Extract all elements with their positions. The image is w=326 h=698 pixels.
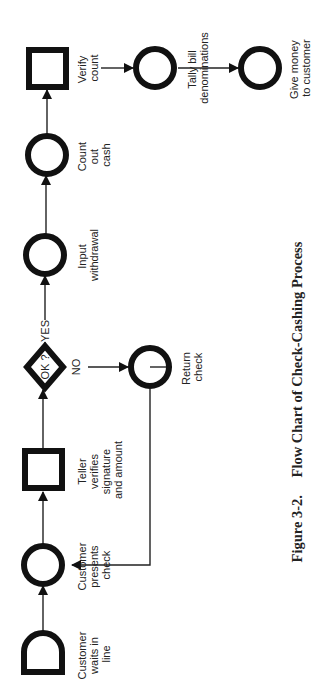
- node-label-line: and amount: [112, 441, 124, 499]
- edge-label-yes: YES: [39, 320, 51, 342]
- figure-title: Flow Chart of Check-Cashing Process: [289, 241, 305, 477]
- svg-text:Return check: Return check: [180, 349, 204, 385]
- node-label-line: Customer: [76, 631, 88, 679]
- delay-shape-icon: [24, 633, 62, 672]
- node-label-line: check: [192, 352, 204, 381]
- figure-number: Figure 3-2.: [289, 495, 305, 562]
- decision-text: OK ?: [39, 354, 51, 379]
- svg-text:Give money to customer: Give money to customer: [288, 37, 312, 99]
- node-label-line: to customer: [300, 39, 312, 97]
- svg-text:Teller verifies si: Teller verifies signature and amount: [76, 441, 124, 499]
- node-present: Customer presents check: [24, 540, 112, 591]
- node-label-line: cash: [100, 143, 112, 166]
- svg-text:Input withdrawal: Input withdrawal: [76, 229, 100, 282]
- operation-circle-icon: [26, 236, 64, 274]
- node-label-line: denominations: [198, 32, 210, 104]
- edge-label-no: NO: [70, 358, 82, 375]
- node-label-line: signature: [100, 449, 112, 494]
- node-verify-count: Verify count: [29, 50, 100, 87]
- svg-text:Tally bill denominations: Tally bill denominations: [186, 32, 210, 104]
- node-label-line: Input: [76, 244, 88, 268]
- node-wait: Customer waits in line: [24, 629, 112, 680]
- operation-circle-icon: [24, 546, 62, 584]
- node-label-line: Return: [180, 352, 192, 385]
- svg-text:Verify count: Verify count: [76, 53, 100, 84]
- node-label-line: Teller: [76, 458, 88, 485]
- flowchart-diagram: Customer waits in line Customer presents…: [0, 0, 326, 698]
- node-label-line: line: [100, 645, 112, 662]
- inspection-square-icon: [29, 50, 66, 87]
- figure-caption: Figure 3-2. Flow Chart of Check-Cashing …: [289, 241, 305, 562]
- node-label-line: withdrawal: [88, 229, 100, 282]
- flowchart-stage: Customer waits in line Customer presents…: [0, 0, 326, 698]
- node-label-line: count: [88, 55, 100, 82]
- node-verify-signature: Teller verifies signature and amount: [25, 441, 124, 499]
- node-label-line: Give money: [288, 40, 300, 99]
- node-label-line: Tally bill: [186, 50, 198, 89]
- node-label-line: Customer: [76, 542, 88, 590]
- node-label-line: waits in: [88, 637, 100, 675]
- node-label-line: check: [100, 550, 112, 579]
- node-label-line: out: [88, 149, 100, 164]
- svg-text:Count out cash: Count out cash: [76, 139, 112, 171]
- node-count: Count out cash: [28, 136, 112, 174]
- node-tally: Tally bill denominations: [136, 32, 210, 104]
- operation-circle-icon: [28, 136, 66, 174]
- svg-text:Customer waits in: Customer waits in line: [76, 629, 112, 680]
- node-label-line: presents: [88, 545, 100, 588]
- svg-text:Customer presents: Customer presents check: [76, 540, 112, 591]
- node-label-line: verifies: [88, 454, 100, 489]
- node-give-money: Give money to customer: [241, 37, 312, 99]
- node-return: Return check: [131, 348, 204, 386]
- node-input: Input withdrawal: [26, 229, 100, 282]
- node-label-line: Count: [76, 142, 88, 171]
- inspection-square-icon: [25, 451, 62, 488]
- node-ok-decision: OK ? YES NO: [27, 320, 82, 388]
- operation-circle-icon: [136, 49, 174, 87]
- operation-circle-icon: [241, 49, 279, 87]
- node-label-line: Verify: [76, 55, 88, 83]
